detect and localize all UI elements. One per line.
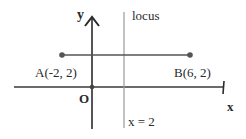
point-b-label: B(6, 2) [174,66,211,79]
locus-diagram: y locus A(-2, 2) B(6, 2) O x x = 2 [0,0,246,139]
point-a [59,52,65,58]
y-axis-label: y [77,8,84,22]
origin-point [90,85,95,90]
point-b [187,52,193,58]
x-axis-label: x [227,100,234,113]
point-a-label: A(-2, 2) [35,66,77,79]
locus-label: locus [132,9,159,22]
locus-equation-label: x = 2 [128,115,155,128]
origin-label: O [79,92,89,105]
x-axis-end-tick [223,81,224,94]
